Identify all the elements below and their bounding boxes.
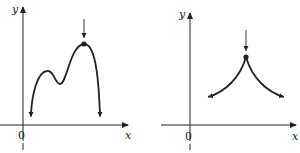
right-curve-left	[208, 57, 246, 97]
left-curve	[31, 44, 100, 114]
right-x-label: x	[292, 130, 299, 143]
left-x-label: x	[125, 129, 132, 142]
left-origin-label: 0	[18, 129, 25, 142]
right-y-label: y	[178, 8, 186, 21]
right-max-point	[243, 54, 248, 59]
left-y-label: y	[11, 3, 19, 16]
left-max-point	[81, 41, 86, 46]
right-graph: y x 0	[161, 8, 299, 150]
right-origin-label: 0	[185, 130, 192, 143]
right-curve-right	[246, 57, 284, 97]
left-graph: y x 0	[0, 3, 132, 150]
figure: y x 0 y x 0	[0, 0, 300, 153]
